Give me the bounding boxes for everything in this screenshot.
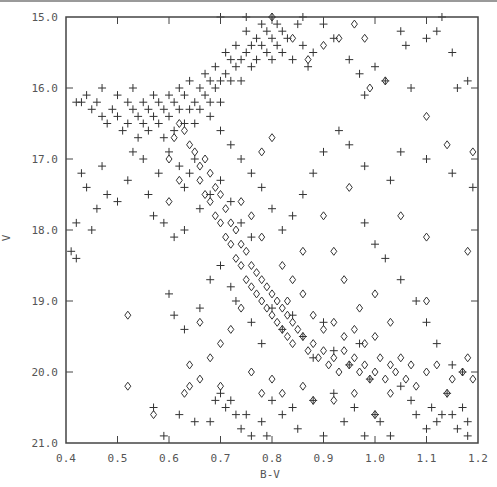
- x-tick-label: 0.5: [108, 452, 128, 465]
- diamond-marker: [269, 134, 275, 142]
- y-tick-label: 20.0: [32, 366, 59, 379]
- plus-marker: [278, 226, 286, 234]
- diamond-marker: [279, 304, 285, 312]
- plus-marker: [144, 127, 152, 135]
- diamond-marker: [212, 183, 218, 191]
- plus-marker: [217, 176, 225, 184]
- plus-marker: [232, 297, 240, 305]
- diamond-marker: [408, 361, 414, 369]
- diamond-marker: [372, 290, 378, 298]
- plus-marker: [345, 141, 353, 149]
- plus-marker: [150, 91, 158, 99]
- plus-marker: [361, 91, 369, 99]
- plus-marker: [217, 127, 225, 135]
- plus-marker: [222, 70, 230, 78]
- diamond-marker: [176, 176, 182, 184]
- diamond-marker: [228, 219, 234, 227]
- plus-marker: [83, 91, 91, 99]
- plus-marker: [222, 404, 230, 412]
- plus-marker: [180, 325, 188, 333]
- x-tick-label: 0.4: [56, 452, 76, 465]
- diamond-marker: [346, 183, 352, 191]
- plus-marker: [273, 41, 281, 49]
- y-tick-label: 15.0: [32, 11, 59, 24]
- plus-marker: [464, 418, 472, 426]
- plus-marker: [397, 276, 405, 284]
- diamond-marker: [351, 20, 357, 28]
- diamond-marker: [192, 148, 198, 156]
- diamond-marker: [197, 162, 203, 170]
- plus-marker: [345, 56, 353, 64]
- plus-marker: [227, 56, 235, 64]
- diamond-marker: [321, 325, 327, 333]
- plus-marker: [237, 155, 245, 163]
- plus-marker: [423, 425, 431, 433]
- diamond-marker: [305, 56, 311, 64]
- plus-marker: [134, 134, 142, 142]
- plus-marker: [150, 112, 158, 120]
- diamond-marker: [202, 155, 208, 163]
- plus-marker: [201, 91, 209, 99]
- plus-marker: [191, 418, 199, 426]
- diamond-marker: [181, 389, 187, 397]
- diamond-marker: [387, 361, 393, 369]
- plus-marker: [211, 84, 219, 92]
- plus-marker: [433, 27, 441, 35]
- plus-marker: [227, 77, 235, 85]
- plus-marker: [386, 432, 394, 440]
- plus-marker: [273, 20, 281, 28]
- plus-marker: [108, 105, 116, 113]
- plus-marker: [191, 120, 199, 128]
- plus-marker: [170, 98, 178, 106]
- plus-marker: [258, 340, 266, 348]
- diamond-marker: [331, 318, 337, 326]
- plus-marker: [386, 176, 394, 184]
- diamond-marker: [341, 347, 347, 355]
- plus-marker: [289, 404, 297, 412]
- plus-marker: [129, 84, 137, 92]
- plus-marker: [72, 254, 80, 262]
- plus-marker: [114, 198, 122, 206]
- diamond-marker: [151, 411, 157, 419]
- plus-marker: [376, 418, 384, 426]
- plus-marker: [258, 41, 266, 49]
- diamond-marker: [218, 382, 224, 390]
- plus-marker: [196, 205, 204, 213]
- diamond-marker: [424, 297, 430, 305]
- plus-marker: [217, 77, 225, 85]
- plus-marker: [119, 127, 127, 135]
- diamond-marker: [259, 233, 265, 241]
- data-points: [67, 13, 477, 440]
- diamond-marker: [254, 290, 260, 298]
- diamond-marker: [259, 297, 265, 305]
- diamond-marker: [233, 254, 239, 262]
- plus-marker: [453, 84, 461, 92]
- diamond-marker: [341, 276, 347, 284]
- diamond-marker: [125, 311, 131, 319]
- plot-frame: [66, 17, 478, 443]
- diamond-marker: [279, 262, 285, 270]
- diamond-marker: [424, 233, 430, 241]
- plus-marker: [356, 70, 364, 78]
- diamond-marker: [357, 368, 363, 376]
- diamond-marker: [187, 361, 193, 369]
- y-tick-label: 17.0: [32, 153, 59, 166]
- plus-marker: [289, 56, 297, 64]
- diamond-marker: [274, 297, 280, 305]
- plus-marker: [402, 41, 410, 49]
- plus-marker: [268, 56, 276, 64]
- plus-marker: [165, 290, 173, 298]
- diamond-marker: [393, 368, 399, 376]
- plus-marker: [242, 411, 250, 419]
- plus-marker: [129, 148, 137, 156]
- plus-marker: [180, 91, 188, 99]
- plus-marker: [103, 120, 111, 128]
- plus-marker: [77, 98, 85, 106]
- series-diamond: [125, 13, 476, 419]
- plus-marker: [294, 425, 302, 433]
- plus-marker: [453, 425, 461, 433]
- plus-marker: [247, 41, 255, 49]
- diamond-marker: [259, 389, 265, 397]
- plus-marker: [247, 318, 255, 326]
- diamond-marker: [238, 262, 244, 270]
